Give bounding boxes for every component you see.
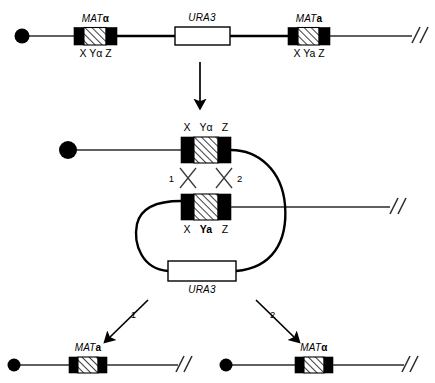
segment-x-label: X (183, 121, 190, 133)
crossover-1-icon: 1 (169, 168, 196, 188)
segment-z-block (319, 28, 330, 46)
upper-cassette: X Yα Z (181, 121, 231, 163)
figure-root: MATα X Yα Z URA3 MATa X Ya Z (0, 0, 435, 383)
segment-z-label: Z (222, 121, 229, 133)
outcome-2-chromosome: MATα (220, 342, 419, 373)
segment-y-block (78, 357, 98, 373)
locus-gene-label: MATα (82, 13, 110, 24)
middle-intermediate: X Yα Z 1 2 X Ya Z (59, 121, 406, 295)
segment-x-block (288, 28, 298, 46)
locus-gene-label: MATα (300, 342, 328, 353)
outcome-arrow-1-label: 1 (131, 309, 136, 320)
segment-z-label: Z (222, 223, 229, 235)
crossover-2-label: 2 (237, 173, 242, 184)
double-slash-break-icon (390, 198, 406, 214)
locus-mat-alpha: MATα X Yα Z (74, 13, 117, 59)
locus-ura3: URA3 (175, 12, 230, 45)
crossover-2-icon: 2 (216, 168, 242, 188)
segment-z-block (98, 357, 107, 373)
centromere-dot-icon (220, 359, 233, 372)
centromere-dot-icon (59, 141, 77, 159)
outcome-arrow-2: 2 (256, 300, 296, 339)
segment-z-block (324, 357, 333, 373)
segment-y-block (84, 28, 106, 46)
locus-ura3-loop: URA3 (168, 261, 236, 295)
segment-y-block (194, 137, 218, 163)
double-slash-break-icon (412, 27, 428, 43)
segment-y-block (194, 194, 218, 220)
centromere-dot-icon (8, 359, 21, 372)
segment-y-block (304, 357, 324, 373)
ura3-label: URA3 (188, 12, 216, 23)
locus-segments-label: X Ya Z (293, 47, 325, 59)
loop-strand-right (231, 150, 285, 271)
centromere-dot-icon (15, 29, 30, 44)
double-slash-break-icon (176, 356, 192, 372)
crossover-1-label: 1 (169, 173, 174, 184)
recombination-diagram: MATα X Yα Z URA3 MATa X Ya Z (0, 0, 435, 383)
ura3-label: URA3 (188, 284, 216, 295)
segment-y-block (298, 28, 319, 46)
top-chromosome-row: MATα X Yα Z URA3 MATa X Ya Z (15, 12, 429, 59)
locus-mat-alpha: MATα (295, 342, 333, 373)
locus-gene-label: MATa (296, 13, 323, 24)
segment-y-label: Yα (199, 121, 212, 133)
segment-x-block (74, 28, 84, 46)
outcome-1-chromosome: MATa (8, 342, 193, 373)
lower-cassette: X Ya Z (181, 194, 231, 235)
segment-x-block (69, 357, 78, 373)
segment-x-label: X (183, 223, 190, 235)
locus-mat-a: MATa (69, 342, 107, 373)
segment-z-block (218, 194, 231, 220)
locus-mat-a: MATa X Ya Z (288, 13, 330, 59)
segment-x-block (295, 357, 304, 373)
ura3-box (175, 27, 230, 45)
locus-gene-label: MATa (75, 342, 102, 353)
segment-x-block (181, 137, 194, 163)
segment-z-block (106, 28, 117, 46)
locus-segments-label: X Yα Z (79, 47, 112, 59)
outcome-arrow-1: 1 (108, 300, 148, 339)
ura3-box (168, 261, 236, 281)
outcome-arrow-2-label: 2 (270, 309, 275, 320)
segment-y-label: Ya (200, 223, 212, 235)
segment-z-block (218, 137, 231, 163)
double-slash-break-icon (402, 356, 418, 372)
segment-x-block (181, 194, 194, 220)
